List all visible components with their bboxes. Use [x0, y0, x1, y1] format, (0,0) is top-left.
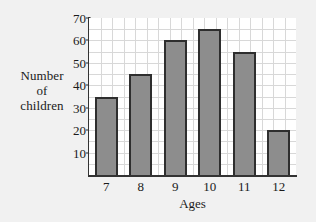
y-axis-tick-label: 70	[56, 12, 86, 25]
x-axis-tick-labels: 789101112	[89, 180, 296, 196]
x-axis-tick-label: 7	[91, 180, 121, 194]
y-axis-tick-label: 30	[56, 101, 86, 114]
y-axis-tick-label: 40	[56, 79, 86, 92]
bar-age-12	[267, 130, 290, 175]
chart-figure: Number of children 10203040506070 789101…	[0, 0, 316, 222]
bar-series	[89, 18, 296, 175]
y-axis-tick-label: 50	[56, 56, 86, 69]
y-axis-tick-label: 60	[56, 34, 86, 47]
x-axis-tick-label: 9	[160, 180, 190, 194]
bar-age-7	[95, 97, 118, 176]
y-axis-tick-labels: 10203040506070	[56, 12, 86, 180]
bar-age-8	[129, 74, 152, 175]
y-axis-tick-label: 10	[56, 146, 86, 159]
plot-area	[89, 18, 296, 175]
x-axis-tick-label: 8	[126, 180, 156, 194]
x-axis-title: Ages	[89, 196, 296, 212]
x-axis-line	[88, 175, 297, 177]
y-axis-tick-label: 20	[56, 124, 86, 137]
bar-age-11	[233, 52, 256, 175]
bar-age-10	[198, 29, 221, 175]
bar-age-9	[164, 40, 187, 175]
x-axis-tick-label: 11	[229, 180, 259, 194]
x-axis-tick-label: 12	[264, 180, 294, 194]
x-axis-tick-label: 10	[195, 180, 225, 194]
